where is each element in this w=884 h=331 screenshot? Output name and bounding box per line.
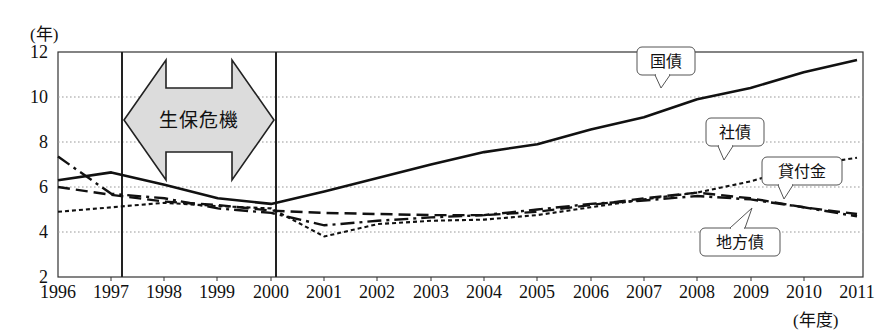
callout-kokusai: 国債	[637, 47, 695, 88]
series-line-kashitsukekin	[58, 187, 857, 215]
callout-chihousai: 地方債	[700, 208, 780, 256]
callout-label-chihousai: 地方債	[716, 234, 764, 251]
crisis-band-boundaries	[122, 52, 276, 277]
callout-label-kokusai: 国債	[650, 53, 682, 70]
chart-svg: 生保危機 国債 社債 貸付金	[0, 0, 884, 331]
callout-kashitsukekin: 貸付金	[762, 157, 842, 199]
chart-root: (年) (年度) 12 10 8 6 4 2 1996 1997 1998 19…	[0, 0, 884, 331]
x-axis-ticks	[111, 277, 804, 281]
callout-label-kashitsukekin: 貸付金	[778, 163, 826, 180]
crisis-band-arrow: 生保危機	[124, 60, 274, 180]
callout-shasai: 社債	[706, 118, 764, 160]
callout-label-shasai: 社債	[719, 124, 751, 141]
crisis-band-label: 生保危機	[159, 110, 239, 131]
